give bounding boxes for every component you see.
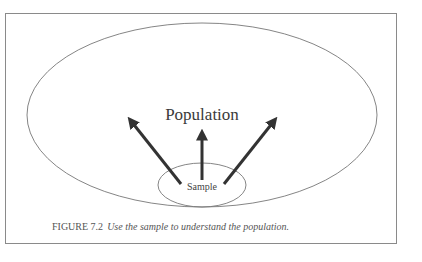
caption-text: Use the sample to understand the populat… bbox=[107, 221, 289, 232]
arrow-upper-left bbox=[131, 121, 181, 184]
figure-caption: FIGURE 7.2Use the sample to understand t… bbox=[52, 221, 289, 232]
figure-number: FIGURE 7.2 bbox=[52, 221, 103, 232]
arrow-upper-right bbox=[224, 121, 274, 184]
population-label: Population bbox=[165, 105, 239, 124]
sample-label: Sample bbox=[187, 181, 218, 192]
